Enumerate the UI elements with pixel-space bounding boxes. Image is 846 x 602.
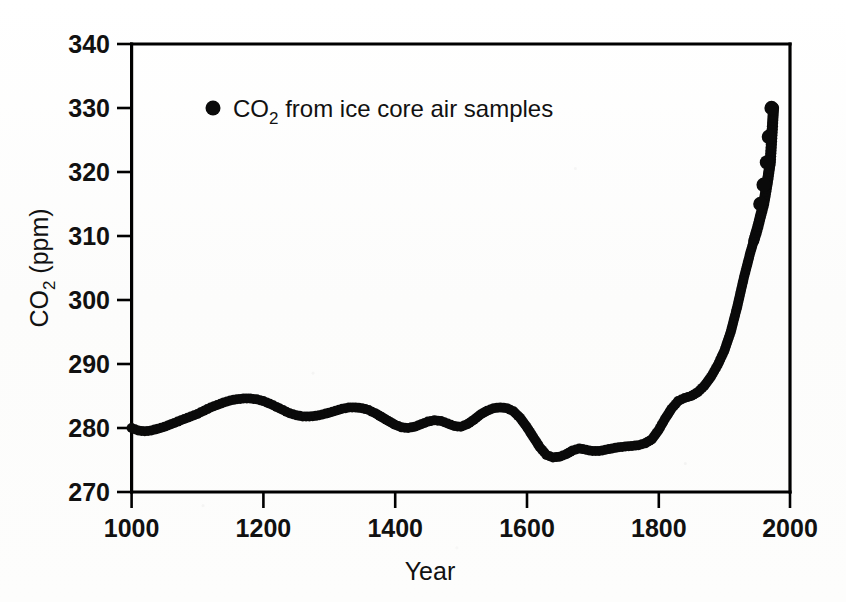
y-ticklabel-330: 330	[68, 94, 110, 122]
y-axis-title-prefix: CO	[25, 290, 53, 328]
data-point-modern	[760, 155, 774, 169]
y-ticklabel-310: 310	[68, 222, 110, 250]
x-ticklabel-1200: 1200	[236, 514, 292, 542]
x-ticklabel-1000: 1000	[104, 514, 160, 542]
x-axis-tick-labels: 1000 1200 1400 1600 1800 2000	[104, 514, 818, 542]
x-ticklabel-1600: 1600	[499, 514, 555, 542]
y-ticklabel-270: 270	[68, 478, 110, 506]
x-axis-ticks	[132, 492, 790, 508]
y-axis-title-suffix: (ppm)	[25, 208, 53, 280]
data-series-co2	[127, 101, 780, 463]
x-axis-title: Year	[405, 557, 456, 585]
data-point-modern	[764, 101, 778, 115]
svg-text:CO2 (ppm): CO2 (ppm)	[25, 208, 59, 327]
legend-label: CO2 from ice core air samples	[233, 95, 553, 128]
data-point-modern	[753, 197, 767, 211]
y-axis-title-subscript: 2	[40, 281, 59, 290]
legend-filled-circle-marker-icon	[206, 101, 221, 116]
y-axis-tick-labels: 340 330 320 310 300 290 280 270	[68, 30, 110, 506]
legend-label-prefix: CO	[233, 95, 269, 122]
x-ticklabel-2000: 2000	[762, 514, 818, 542]
co2-ice-core-chart: 340 330 320 310 300 290 280 270 1000 120…	[0, 0, 846, 602]
chart-legend: CO2 from ice core air samples	[206, 95, 554, 128]
chart-canvas: 340 330 320 310 300 290 280 270 1000 120…	[0, 0, 846, 602]
y-ticklabel-340: 340	[68, 30, 110, 58]
x-ticklabel-1400: 1400	[367, 514, 423, 542]
legend-label-suffix: from ice core air samples	[278, 95, 553, 122]
data-point-modern	[762, 130, 776, 144]
y-axis-title: CO2 (ppm)	[25, 208, 59, 327]
y-ticklabel-320: 320	[68, 158, 110, 186]
legend-label-subscript: 2	[269, 109, 278, 128]
y-ticklabel-290: 290	[68, 350, 110, 378]
y-ticklabel-300: 300	[68, 286, 110, 314]
data-point-modern	[756, 178, 770, 192]
x-ticklabel-1800: 1800	[631, 514, 687, 542]
y-ticklabel-280: 280	[68, 414, 110, 442]
